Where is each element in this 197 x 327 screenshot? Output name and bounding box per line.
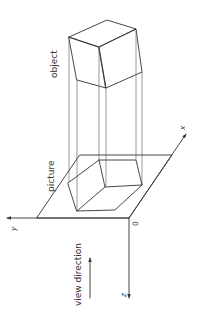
projection-lines [69,29,142,211]
x-axis [129,134,186,218]
z-axis-label: z [119,292,128,298]
cube-left-face [69,37,106,88]
origin-label: 0 [131,221,140,226]
projected-image [68,160,142,211]
cube-right-face [99,29,142,88]
object-cube [69,20,142,88]
image-inner-edge [99,160,142,187]
object-label: object [49,50,59,78]
picture-label: picture [46,160,56,192]
image-inner-edge [77,187,105,211]
x-axis-label: x [178,125,187,131]
y-axis-label: y [9,226,18,232]
projection-diagram: object picture view direction x y z 0 [0,0,197,327]
view-direction-label: view direction [73,243,83,306]
